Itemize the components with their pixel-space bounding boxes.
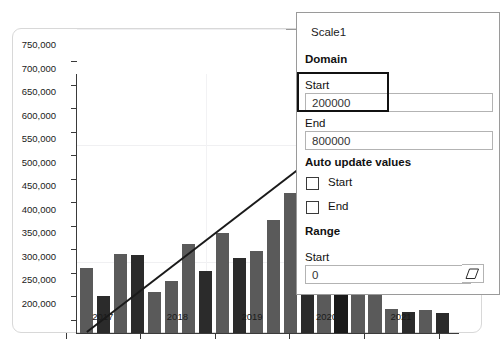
y-axis-tick-label: 600,000 xyxy=(22,111,56,121)
auto-update-start-label: Start xyxy=(328,176,352,188)
x-axis-tick-label: 2019 xyxy=(241,311,262,322)
screenshot-root: 750,000700,000650,000600,000550,000500,0… xyxy=(0,0,504,346)
y-axis-tick-label: 250,000 xyxy=(22,275,56,285)
y-axis-tick-label: 350,000 xyxy=(22,228,56,238)
auto-update-end-label: End xyxy=(328,200,348,212)
y-axis-tick xyxy=(71,273,77,274)
x-axis-tick xyxy=(289,333,290,339)
y-axis-tick-label: 400,000 xyxy=(22,205,56,215)
y-axis-tick xyxy=(71,226,77,227)
y-axis-tick xyxy=(71,296,77,297)
domain-end-value: 800000 xyxy=(312,134,350,148)
bar xyxy=(267,220,280,333)
bar xyxy=(216,233,229,333)
range-start-value: 0 xyxy=(312,268,318,282)
scale-properties-panel: Scale1 Domain Start 200000 End 800000 Au… xyxy=(296,12,500,295)
auto-update-start-checkbox[interactable] xyxy=(306,177,319,190)
bar xyxy=(114,254,127,333)
bar xyxy=(284,193,297,333)
x-axis-tick xyxy=(364,333,365,339)
x-axis-tick xyxy=(439,333,440,339)
y-axis-labels: 750,000700,000650,000600,000550,000500,0… xyxy=(0,0,56,346)
auto-update-end-checkbox[interactable] xyxy=(306,201,319,214)
bar xyxy=(199,271,212,333)
range-start-label: Start xyxy=(305,251,329,263)
domain-start-focus-highlight xyxy=(297,72,389,112)
bar xyxy=(80,268,93,333)
y-axis-tick xyxy=(71,179,77,180)
y-axis-tick xyxy=(71,132,77,133)
bar xyxy=(419,310,432,333)
y-axis-tick-label: 650,000 xyxy=(22,87,56,97)
y-axis-tick-label: 450,000 xyxy=(22,181,56,191)
x-axis-tick-label: 2017 xyxy=(92,311,113,322)
y-axis-tick xyxy=(71,320,77,321)
domain-end-label: End xyxy=(305,117,325,129)
bar xyxy=(165,281,178,333)
panel-title: Scale1 xyxy=(311,26,346,38)
y-axis-tick-label: 700,000 xyxy=(22,64,56,74)
y-axis-tick xyxy=(71,155,77,156)
x-axis-tick xyxy=(66,333,67,339)
x-axis-tick-label: 2021 xyxy=(391,311,412,322)
x-axis-tick xyxy=(215,333,216,339)
y-axis-tick xyxy=(71,202,77,203)
bar xyxy=(436,313,449,333)
x-axis-tick-label: 2018 xyxy=(167,311,188,322)
bar xyxy=(148,292,161,333)
x-axis-tick xyxy=(140,333,141,339)
y-axis-tick xyxy=(71,249,77,250)
y-axis-tick-label: 550,000 xyxy=(22,134,56,144)
domain-end-input[interactable]: 800000 xyxy=(305,131,493,150)
y-axis-tick-label: 500,000 xyxy=(22,158,56,168)
y-axis-tick xyxy=(71,61,77,62)
y-axis-tick-label: 200,000 xyxy=(22,299,56,309)
y-axis-tick-label: 750,000 xyxy=(22,40,56,50)
y-axis-tick xyxy=(71,85,77,86)
eraser-icon-button[interactable] xyxy=(462,264,484,283)
auto-update-heading: Auto update values xyxy=(305,156,411,168)
eraser-icon xyxy=(465,268,480,280)
y-axis-tick xyxy=(71,108,77,109)
range-section-heading: Range xyxy=(305,225,340,237)
range-start-input[interactable]: 0 xyxy=(305,265,471,284)
bar xyxy=(131,255,144,333)
x-axis-line xyxy=(76,333,459,334)
domain-section-heading: Domain xyxy=(305,53,347,65)
y-axis-tick-label: 300,000 xyxy=(22,252,56,262)
x-axis-tick-label: 2020 xyxy=(316,311,337,322)
